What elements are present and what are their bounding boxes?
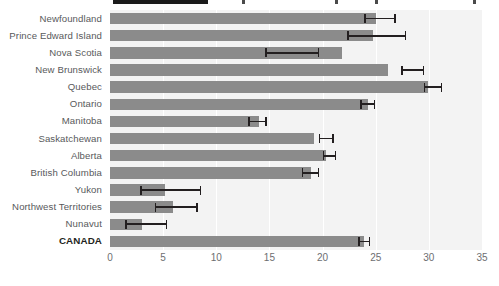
category-label: New Brunswick <box>0 64 102 75</box>
error-cap-high <box>332 134 334 143</box>
error-cap-high <box>200 186 202 195</box>
error-cap-low <box>140 186 142 195</box>
error-cap-low <box>347 31 349 40</box>
x-tick-label: 25 <box>356 252 396 263</box>
plot-area <box>110 10 482 250</box>
bar <box>110 64 388 76</box>
error-cap-low <box>358 237 360 246</box>
error-cap-low <box>248 117 250 126</box>
bar-row <box>110 133 482 145</box>
error-cap-high <box>335 151 337 160</box>
x-tick-label: 35 <box>462 252 499 263</box>
x-tick-label: 0 <box>90 252 130 263</box>
bar <box>110 30 373 42</box>
category-label: Alberta <box>0 150 102 161</box>
x-tick-label: 5 <box>143 252 183 263</box>
gridline <box>482 10 483 250</box>
gridline <box>216 10 217 250</box>
legend-tick-mark <box>473 0 476 4</box>
error-bar <box>365 18 395 20</box>
error-bar <box>348 35 405 37</box>
error-cap-high <box>318 48 320 57</box>
error-bar <box>319 138 333 140</box>
bar-row <box>110 167 482 179</box>
error-cap-high <box>265 117 267 126</box>
legend-tick-mark <box>335 0 338 4</box>
bar-row <box>110 150 482 162</box>
error-bar <box>249 121 266 123</box>
error-cap-low <box>155 203 157 212</box>
category-label: Quebec <box>0 81 102 92</box>
error-bar <box>402 69 423 71</box>
bar <box>110 150 326 162</box>
error-bar <box>361 103 375 105</box>
error-bar <box>266 52 318 54</box>
error-cap-high <box>394 14 396 23</box>
error-cap-high <box>374 100 376 109</box>
x-tick-label: 30 <box>409 252 449 263</box>
gridline <box>323 10 324 250</box>
category-label: Saskatchewan <box>0 133 102 144</box>
error-cap-high <box>369 237 371 246</box>
gridline <box>163 10 164 250</box>
bar-row <box>110 184 482 196</box>
x-tick-label: 15 <box>249 252 289 263</box>
bar <box>110 13 376 25</box>
bar-chart: NewfoundlandPrince Edward IslandNova Sco… <box>0 0 499 286</box>
category-label: CANADA <box>0 235 102 246</box>
legend-tick-mark <box>375 0 378 4</box>
error-cap-high <box>405 31 407 40</box>
category-label: British Columbia <box>0 167 102 178</box>
category-label: Manitoba <box>0 115 102 126</box>
error-bar <box>425 86 442 88</box>
error-cap-low <box>265 48 267 57</box>
category-label: Nunavut <box>0 218 102 229</box>
bar-row <box>110 99 482 111</box>
bar <box>110 236 364 248</box>
legend-tick-mark <box>242 0 245 4</box>
legend-rule-swatch <box>113 0 208 4</box>
error-cap-high <box>196 203 198 212</box>
category-label-column: NewfoundlandPrince Edward IslandNova Sco… <box>0 10 106 250</box>
bar <box>110 81 428 93</box>
x-tick-label: 20 <box>303 252 343 263</box>
bar <box>110 167 311 179</box>
bar-row <box>110 116 482 128</box>
error-cap-low <box>360 100 362 109</box>
category-label: Ontario <box>0 98 102 109</box>
x-axis: 05101520253035 <box>110 250 482 272</box>
bar-row <box>110 13 482 25</box>
error-bar <box>302 172 318 174</box>
bar-row <box>110 30 482 42</box>
error-bar <box>141 189 201 191</box>
bar <box>110 133 314 145</box>
gridline <box>269 10 270 250</box>
error-cap-high <box>166 220 168 229</box>
error-cap-high <box>423 66 425 75</box>
category-label: Newfoundland <box>0 13 102 24</box>
category-label: Nova Scotia <box>0 47 102 58</box>
x-tick-label: 10 <box>196 252 236 263</box>
bar <box>110 116 259 128</box>
error-cap-low <box>125 220 127 229</box>
gridline <box>376 10 377 250</box>
category-label: Yukon <box>0 184 102 195</box>
category-label: Prince Edward Island <box>0 30 102 41</box>
bar-row <box>110 201 482 213</box>
error-cap-low <box>319 134 321 143</box>
bar-row <box>110 81 482 93</box>
error-cap-low <box>364 14 366 23</box>
category-label: Northwest Territories <box>0 201 102 212</box>
error-cap-high <box>318 168 320 177</box>
error-cap-high <box>441 83 443 92</box>
bar-row <box>110 236 482 248</box>
error-cap-low <box>323 151 325 160</box>
error-cap-low <box>424 83 426 92</box>
bar <box>110 99 368 111</box>
error-bar <box>156 206 197 208</box>
bar-row <box>110 219 482 231</box>
gridline <box>429 10 430 250</box>
error-cap-low <box>401 66 403 75</box>
error-cap-low <box>302 168 304 177</box>
bar-row <box>110 47 482 59</box>
